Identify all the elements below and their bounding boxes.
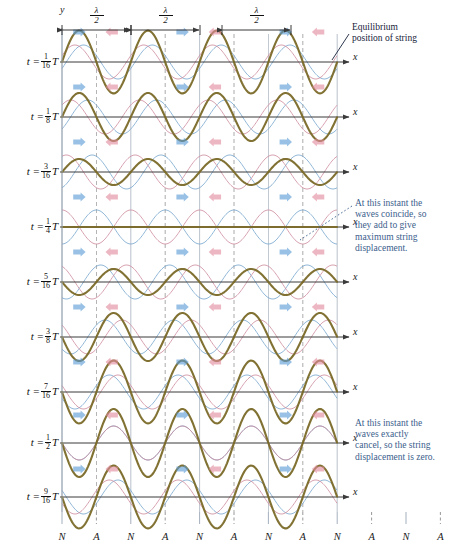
arrow-right-icon [280, 27, 292, 36]
time-prefix: t = [27, 55, 40, 67]
node-label-10: N [399, 531, 413, 542]
time-fraction: 316 [41, 163, 51, 180]
time-prefix: t = [31, 110, 44, 122]
node-label-6: N [261, 531, 275, 542]
arrow-left-icon [312, 410, 324, 419]
y-axis-label: y [60, 4, 64, 15]
arrow-left-icon [105, 27, 117, 36]
time-prefix: t = [27, 385, 40, 397]
row-t-9-16 [60, 464, 349, 528]
cancel-note-line-3: displacement is zero. [355, 452, 463, 463]
arrow-right-icon [73, 27, 85, 36]
time-suffix: T [52, 385, 58, 397]
row-t-1-4 [60, 192, 349, 244]
arrow-right-icon [73, 464, 85, 473]
lambda-symbol: λ [159, 6, 173, 15]
time-label-3-16: t =316T [6, 163, 58, 180]
arrow-left-icon [209, 302, 221, 311]
lambda-denominator: 2 [90, 15, 104, 25]
equilibrium-note-line-0: Equilibrium [352, 22, 460, 33]
row-t-3-16 [60, 137, 349, 189]
x-axis-label: x [353, 486, 357, 497]
time-prefix: t = [27, 275, 40, 287]
row-t-1-8 [60, 82, 349, 141]
arrow-right-icon [280, 137, 292, 146]
antinode-label-1: A [89, 531, 103, 542]
coincide-note-line-0: At this instant the [355, 198, 463, 209]
coincide-note-line-4: displacement. [355, 243, 463, 254]
arrow-left-icon [209, 247, 221, 256]
arrow-right-icon [73, 247, 85, 256]
time-prefix: t = [31, 330, 44, 342]
cancel-note: At this instant thewaves exactlycancel, … [355, 418, 463, 463]
antinode-label-5: A [227, 531, 241, 542]
equilibrium-note-line-1: position of string [352, 33, 460, 44]
arrow-left-icon [105, 302, 117, 311]
antinode-label-11: A [433, 531, 447, 542]
arrow-left-icon [312, 137, 324, 146]
equilibrium-note: Equilibriumposition of string [352, 22, 460, 44]
antinode-label-7: A [296, 531, 310, 542]
time-fraction: 116 [41, 53, 51, 70]
coincide-note-line-2: they add to give [355, 220, 463, 231]
time-fraction: 18 [45, 108, 51, 125]
arrow-right-icon [73, 410, 85, 419]
time-label-3-8: t =38T [6, 328, 58, 345]
arrow-right-icon [73, 302, 85, 311]
x-axis-label: x [353, 326, 357, 337]
arrow-right-icon [176, 192, 188, 201]
arrow-right-icon [73, 137, 85, 146]
row-t-1-16 [60, 27, 349, 93]
arrow-right-icon [280, 464, 292, 473]
x-axis-label: x [353, 271, 357, 282]
time-suffix: T [52, 436, 58, 448]
coincide-note-leader [300, 206, 352, 240]
time-fraction: 12 [45, 434, 51, 451]
arrow-right-icon [176, 302, 188, 311]
arrow-left-icon [312, 27, 324, 36]
time-suffix: T [52, 490, 58, 502]
coincide-note: At this instant thewaves coincide, sothe… [355, 198, 463, 254]
time-fraction: 716 [41, 383, 51, 400]
standing-wave-figure [0, 0, 466, 552]
time-fraction: 14 [45, 218, 51, 235]
time-label-5-16: t =516T [6, 273, 58, 290]
antinode-label-3: A [158, 531, 172, 542]
lambda-denominator: 2 [250, 15, 264, 25]
arrow-right-icon [73, 82, 85, 91]
time-fraction: 38 [45, 328, 51, 345]
arrow-right-icon [176, 27, 188, 36]
row-t-3-8 [60, 302, 349, 361]
arrow-left-icon [105, 410, 117, 419]
time-suffix: T [52, 330, 58, 342]
lambda-symbol: λ [90, 6, 104, 15]
cancel-note-line-1: waves exactly [355, 429, 463, 440]
time-label-9-16: t =916T [6, 488, 58, 505]
wavelength-half-label-0: λ2 [90, 6, 104, 25]
coincide-note-line-1: waves coincide, so [355, 209, 463, 220]
arrow-left-icon [209, 82, 221, 91]
time-suffix: T [52, 165, 58, 177]
lambda-symbol: λ [250, 6, 264, 15]
x-axis-label: x [353, 106, 357, 117]
row-t-7-16 [60, 357, 349, 423]
lambda-denominator: 2 [159, 15, 173, 25]
arrow-left-icon [312, 247, 324, 256]
arrow-left-icon [105, 247, 117, 256]
arrow-right-icon [73, 192, 85, 201]
coincide-note-line-3: maximum string [355, 232, 463, 243]
wavelength-half-label-1: λ2 [159, 6, 173, 25]
time-label-1-8: t =18T [6, 108, 58, 125]
time-label-1-2: t =12T [6, 434, 58, 451]
wavelength-half-label-2: λ2 [250, 6, 264, 25]
node-label-8: N [330, 531, 344, 542]
time-suffix: T [52, 275, 58, 287]
x-axis-label: x [353, 161, 357, 172]
arrow-right-icon [280, 82, 292, 91]
cancel-note-line-0: At this instant the [355, 418, 463, 429]
arrow-right-icon [280, 192, 292, 201]
arrow-left-icon [312, 192, 324, 201]
arrow-right-icon [280, 247, 292, 256]
time-suffix: T [52, 55, 58, 67]
time-label-1-4: t =14T [6, 218, 58, 235]
